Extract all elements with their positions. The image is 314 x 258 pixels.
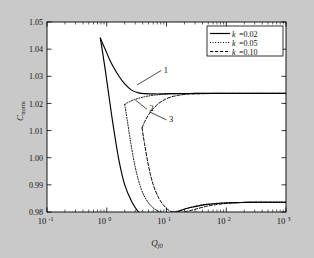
legend-value-1: =0.02 (239, 30, 258, 39)
y-tick-label: 1.05 (29, 18, 43, 27)
y-tick-label: 0.99 (29, 181, 43, 190)
legend-value-2: =0.05 (239, 39, 258, 48)
x-tick-label-base: 10 (38, 216, 47, 226)
legend-symbol-2: k (232, 39, 236, 48)
y-axis-label: Cnorm (15, 81, 29, 141)
figure-container: 0.980.991.001.011.021.031.041.0510-11001… (0, 0, 314, 258)
x-tick-label-exponent: 3 (288, 216, 291, 222)
chart-svg: 0.980.991.001.011.021.031.041.0510-11001… (0, 0, 314, 258)
x-tick-label-base: 10 (157, 216, 166, 226)
y-axis-label-base: C (15, 115, 25, 121)
x-tick-label-base: 10 (217, 216, 226, 226)
legend-symbol-1: k (232, 30, 236, 39)
y-axis-label-subscript: norm (19, 101, 26, 115)
y-tick-label: 1.03 (29, 72, 43, 81)
x-tick-label-base: 10 (98, 216, 107, 226)
x-axis-label-subscript: f0 (158, 242, 163, 249)
x-axis-label: Qf0 (0, 238, 314, 249)
y-tick-label: 1.02 (29, 100, 43, 109)
x-tick-label-exponent: 1 (168, 216, 171, 222)
legend-symbol-3: k (232, 48, 236, 57)
y-tick-label: 1.04 (29, 45, 43, 54)
legend-value-3: =0.10 (239, 48, 258, 57)
y-tick-label: 1.00 (29, 154, 43, 163)
y-tick-label: 1.01 (29, 127, 43, 136)
annotation-label-1: 1 (164, 65, 168, 75)
annotation-label-3: 3 (169, 114, 173, 124)
x-tick-label-exponent: -1 (49, 216, 54, 222)
x-tick-label-base: 10 (277, 216, 286, 226)
x-tick-label-exponent: 2 (228, 216, 231, 222)
x-tick-label-exponent: 0 (108, 216, 111, 222)
